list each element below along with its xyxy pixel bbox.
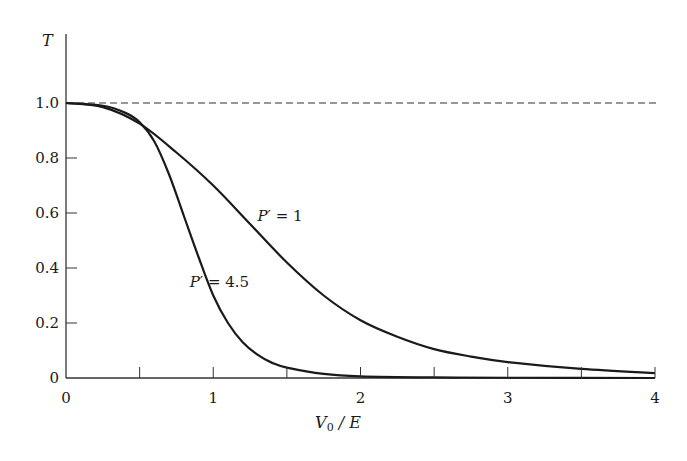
x-axis-title: V0 / E: [315, 413, 361, 434]
axes: [66, 34, 655, 378]
y-tick-label: 0.6: [35, 204, 59, 222]
curves: [66, 103, 655, 378]
x-tick-label: 2: [356, 389, 366, 407]
curve-label-p4-5: P′ = 4.5: [189, 273, 249, 291]
y-tick-label: 0: [49, 369, 59, 387]
curve-p4-5: [66, 103, 655, 378]
ticks: 0123400.20.40.60.81.0: [35, 94, 660, 407]
curve-label-p1: P′ = 1: [256, 207, 302, 225]
y-tick-label: 1.0: [35, 94, 59, 112]
y-axis-title: T: [42, 31, 54, 50]
x-tick-label: 1: [208, 389, 218, 407]
x-tick-label: 4: [650, 389, 660, 407]
y-tick-label: 0.2: [35, 314, 59, 332]
x-tick-label: 3: [503, 389, 513, 407]
x-tick-label: 0: [61, 389, 71, 407]
y-tick-label: 0.4: [35, 259, 59, 277]
y-tick-label: 0.8: [35, 149, 59, 167]
transmission-chart: 0123400.20.40.60.81.0 T V0 / E P′ = 1P′ …: [0, 0, 687, 461]
